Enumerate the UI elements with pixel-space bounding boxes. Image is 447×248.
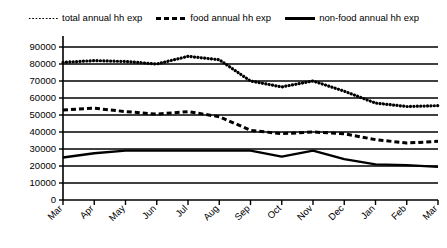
x-axis-tick-label: Dec	[326, 202, 346, 222]
x-axis-tick-label: Sep	[232, 203, 252, 223]
dashed-line-icon	[156, 16, 186, 20]
legend-item-total: total annual hh exp	[28, 13, 142, 23]
x-axis-tick-label: Mar	[45, 203, 64, 222]
chart-legend: total annual hh exp food annual hh exp n…	[0, 8, 447, 28]
legend-label-total: total annual hh exp	[62, 13, 142, 23]
chart-container: total annual hh exp food annual hh exp n…	[0, 0, 447, 248]
y-axis-tick-label: 50000	[30, 109, 56, 120]
x-axis-tick-label: May	[106, 202, 127, 223]
x-axis-tick-label: Nov	[295, 202, 315, 222]
y-axis-tick-label: 10000	[30, 177, 56, 188]
y-axis-tick-label: 70000	[30, 75, 56, 86]
x-axis-tick-label: Jun	[140, 203, 159, 222]
dotted-line-icon	[28, 16, 58, 20]
y-axis-tick-label: 90000	[30, 41, 56, 52]
y-axis-tick-label: 60000	[30, 92, 56, 103]
x-axis-tick-labels: MarAprMayJunJulAugSepOctNovDecJanFebMar	[45, 202, 439, 223]
gridlines-group	[63, 47, 438, 183]
x-axis-tick-label: Jan	[358, 203, 377, 222]
x-axis-tick-label: Feb	[389, 203, 408, 222]
x-axis-tick-label: Apr	[77, 203, 95, 221]
y-axis-tick-label: 20000	[30, 160, 56, 171]
y-axis-tick-labels: 0100002000030000400005000060000700008000…	[30, 41, 56, 205]
x-axis-tick-label: Jul	[173, 203, 189, 219]
legend-item-food: food annual hh exp	[156, 13, 271, 23]
solid-line-icon	[285, 17, 315, 20]
x-axis-tick-label: Oct	[265, 202, 283, 220]
y-axis-tick-label: 80000	[30, 58, 56, 69]
x-axis-tick-label: Aug	[201, 203, 221, 223]
series-line-3	[63, 151, 438, 167]
y-axis-tick-label: 40000	[30, 126, 56, 137]
legend-label-food: food annual hh exp	[190, 13, 271, 23]
y-axis-tick-label: 30000	[30, 143, 56, 154]
x-axis-tick-label: Mar	[420, 203, 439, 222]
legend-item-non-food: non-food annual hh exp	[285, 13, 419, 23]
legend-label-non-food: non-food annual hh exp	[319, 13, 419, 23]
series-line-2	[63, 108, 438, 143]
data-series-group	[63, 56, 438, 167]
plot-area: 0100002000030000400005000060000700008000…	[0, 28, 447, 248]
